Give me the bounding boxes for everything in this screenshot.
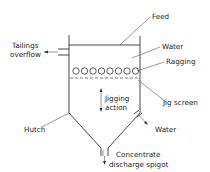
label-ragging: Ragging [166,57,195,66]
leader-lines [42,17,166,127]
label-action: action [105,103,127,112]
label-water-top: Water [162,42,183,51]
label-discharge-spigot: discharge spigot [109,160,169,169]
label-hutch: Hutch [24,125,45,134]
arrow-left-icon [44,51,48,54]
label-jigging: Jigging [104,94,129,103]
jig-diagram: Feed Water Ragging Tailings overflow Jig… [0,0,210,172]
label-concentrate: Concentrate [116,150,161,159]
label-jig-screen: Jig screen [162,98,198,107]
label-water-bottom: Water [155,125,176,134]
jigging-action-arrow-icon [100,88,103,112]
label-overflow: overflow [10,50,41,59]
label-feed: Feed [152,12,169,21]
label-tailings: Tailings [11,41,39,50]
ragging-circles [73,68,139,74]
tailings-overflow-pipe [44,49,69,55]
concentrate-arrow-icon [103,156,106,165]
